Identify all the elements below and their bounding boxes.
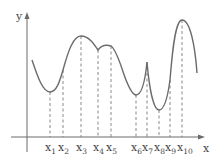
tick-label-x9: x9 bbox=[165, 141, 176, 156]
dashed-guides bbox=[50, 20, 182, 137]
tick-label-x5: x5 bbox=[106, 141, 117, 156]
y-axis-arrow-icon bbox=[25, 12, 30, 19]
tick-label-x4: x4 bbox=[93, 141, 104, 156]
tick-label-x6: x6 bbox=[131, 141, 142, 156]
y-axis-label: y bbox=[15, 10, 23, 23]
tick-label-x8: x8 bbox=[154, 141, 165, 156]
function-graph: y x x1 x2 x3 x4 x5 x6 x7 x8 x9 x10 bbox=[0, 0, 218, 161]
x-axis-arrow-icon bbox=[198, 135, 205, 140]
function-curve bbox=[32, 20, 197, 110]
tick-labels: x1 x2 x3 x4 x5 x6 x7 x8 x9 x10 bbox=[45, 141, 193, 156]
tick-label-x1: x1 bbox=[45, 141, 56, 156]
tick-label-x10: x10 bbox=[177, 141, 193, 156]
tick-label-x7: x7 bbox=[142, 141, 153, 156]
x-axis-label: x bbox=[203, 142, 210, 155]
tick-label-x2: x2 bbox=[58, 141, 69, 156]
tick-label-x3: x3 bbox=[76, 141, 87, 156]
